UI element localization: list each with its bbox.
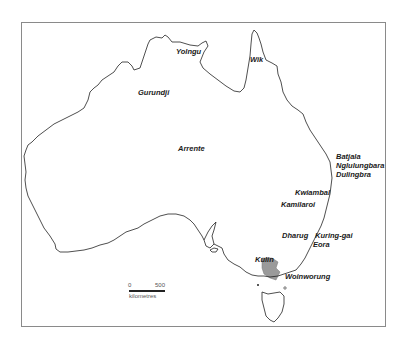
- spencer-gulf-coast: [204, 222, 216, 244]
- label-batjala: Batjala: [336, 153, 361, 161]
- label-dharug: Dharug: [282, 232, 308, 240]
- label-wik: Wik: [250, 56, 263, 64]
- island-dot: [284, 287, 286, 289]
- label-kamilaroi: Kamilaroi: [281, 201, 315, 209]
- label-kulin: Kulin: [255, 256, 274, 264]
- scale-line: [129, 290, 165, 292]
- label-eora: Eora: [313, 241, 330, 249]
- label-nglulungbara: Nglulungbara: [336, 162, 384, 170]
- label-kwiambal: Kwiambal: [295, 189, 330, 197]
- label-arrente: Arrente: [178, 145, 205, 153]
- scale-unit-label: kilometres: [129, 293, 156, 299]
- tasmania-coastline: [262, 292, 284, 322]
- island-dot: [257, 284, 259, 286]
- scale-end-label: 500: [155, 282, 165, 288]
- label-kuring-gai: Kuring-gai: [315, 232, 353, 240]
- label-yolngu: Yolngu: [176, 48, 201, 56]
- label-woinworung: Woinworung: [285, 273, 330, 281]
- kangaroo-island: [210, 248, 218, 252]
- scale-bar: 0 500 kilometres: [128, 282, 168, 302]
- label-gurundji: Gurundji: [138, 89, 169, 97]
- label-dulingbra: Dulingbra: [336, 171, 371, 179]
- scale-start-label: 0: [128, 282, 131, 288]
